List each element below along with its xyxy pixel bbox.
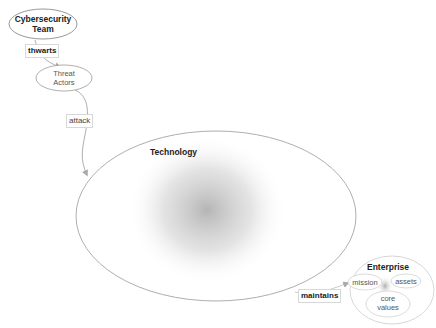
threat-actors-label: Threat Actors [40,69,88,87]
mission-label: mission [350,278,380,287]
threat-actors-label-line1: Threat [40,69,88,78]
threat-actors-label-line2: Actors [40,78,88,87]
core-values-label: core values [372,294,404,312]
cybersecurity-team-label-line2: Team [9,24,77,34]
assets-label: assets [392,277,420,286]
cybersecurity-team-label: Cybersecurity Team [9,14,77,34]
cybersecurity-team-label-line1: Cybersecurity [9,14,77,24]
technology-label: Technology [150,147,197,157]
core-values-line1: core [372,294,404,303]
technology-shading [127,135,287,285]
enterprise-label: Enterprise [367,262,409,272]
edge-label-maintains[interactable]: maintains [298,289,341,303]
edge-label-attack[interactable]: attack [66,114,93,128]
edge-attack [75,90,88,175]
core-values-line2: values [372,303,404,312]
edge-label-thwarts[interactable]: thwarts [25,44,59,58]
